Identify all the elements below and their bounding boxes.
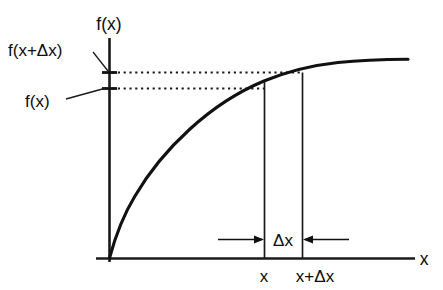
delta-x-label: Δx: [273, 231, 293, 250]
axes-group: [96, 38, 415, 262]
x-value-label-x-plus-delta: x+Δx: [296, 267, 335, 286]
leader-lines-group: [66, 52, 108, 99]
x-value-label-x: x: [260, 267, 269, 286]
figure-canvas: f(x) x f(x+Δx) f(x) x x+Δx Δx: [0, 0, 443, 290]
x-axis-label: x: [420, 249, 429, 269]
derivative-diagram: f(x) x f(x+Δx) f(x) x x+Δx Δx: [0, 0, 443, 290]
dimension-arrowhead-left: [254, 235, 264, 243]
leader-line-lower: [66, 88, 106, 99]
leader-line-upper: [93, 52, 108, 71]
y-value-label-upper: f(x+Δx): [8, 41, 62, 60]
y-axis-label: f(x): [96, 14, 121, 34]
projection-lines-group: [112, 73, 302, 89]
y-value-label-lower: f(x): [25, 92, 50, 111]
dimension-arrowhead-right: [303, 235, 313, 243]
